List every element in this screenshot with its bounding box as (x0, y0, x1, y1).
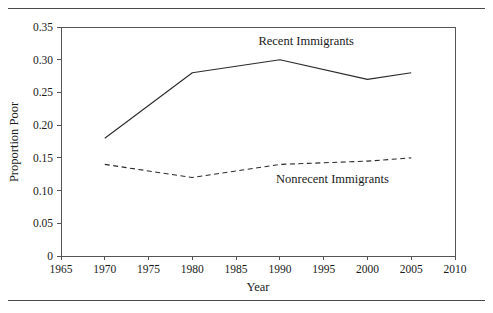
y-axis-ticks (57, 27, 61, 256)
x-axis-title: Year (246, 280, 270, 294)
line-chart: 00.050.100.150.200.250.300.35 1965197019… (0, 0, 493, 313)
y-axis-tick-labels: 00.050.100.150.200.250.300.35 (33, 21, 53, 262)
chart-svg: 00.050.100.150.200.250.300.35 1965197019… (0, 0, 493, 313)
y-axis-title: Proportion Poor (7, 101, 21, 182)
x-tick-label: 1995 (312, 263, 335, 275)
x-axis-tick-labels: 1965197019751980198519901995200020052010 (50, 263, 467, 275)
data-series-group (105, 60, 411, 178)
x-tick-label: 1985 (225, 263, 248, 275)
series-line-recent-immigrants (105, 60, 411, 139)
x-tick-label: 1975 (137, 263, 160, 275)
y-tick-label: 0.10 (33, 185, 53, 197)
y-tick-label: 0 (47, 250, 53, 262)
figure-container: 00.050.100.150.200.250.300.35 1965197019… (0, 0, 493, 313)
x-tick-label: 2010 (444, 263, 467, 275)
y-tick-label: 0.30 (33, 54, 53, 66)
y-tick-label: 0.20 (33, 119, 53, 131)
series-annotation-labels: Recent ImmigrantsNonrecent Immigrants (258, 34, 389, 185)
y-tick-label: 0.15 (33, 152, 53, 164)
y-tick-label: 0.35 (33, 21, 53, 33)
y-tick-label: 0.25 (33, 86, 53, 98)
plot-frame (61, 27, 455, 256)
y-tick-label: 0.05 (33, 217, 53, 229)
x-tick-label: 1970 (93, 263, 116, 275)
x-axis-ticks (61, 256, 455, 260)
x-tick-label: 1980 (181, 263, 204, 275)
series-label-nonrecent-immigrants: Nonrecent Immigrants (276, 172, 389, 186)
x-tick-label: 1990 (268, 263, 291, 275)
series-label-recent-immigrants: Recent Immigrants (258, 34, 354, 48)
x-tick-label: 2000 (356, 263, 379, 275)
x-tick-label: 1965 (50, 263, 73, 275)
x-tick-label: 2005 (400, 263, 423, 275)
